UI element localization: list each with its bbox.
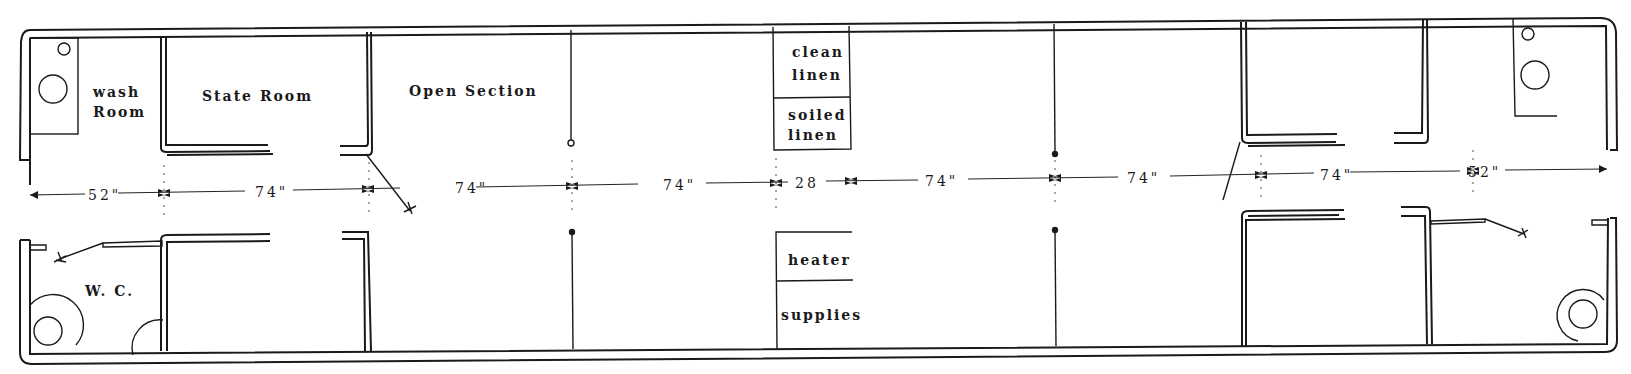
- floor-plan-diagram: 52" 74" 74" 74" 28 74" 74" 74" 52" wash …: [0, 0, 1631, 374]
- room-label-wash-room: Room: [93, 104, 146, 120]
- door-hinge-icon: [404, 202, 416, 214]
- dimension-label: 74": [455, 180, 488, 196]
- dimension-label: 52": [1468, 164, 1501, 180]
- door-hinge-icon: [54, 252, 66, 262]
- wash-room-fixtures: [30, 38, 78, 134]
- room-label-clean-linen: clean: [792, 44, 844, 60]
- dimension-label: 52": [88, 187, 121, 203]
- dimension-label: 28: [795, 175, 819, 191]
- room-label-supplies: supplies: [781, 307, 862, 323]
- room-label-open-section: Open Section: [409, 83, 538, 99]
- dimension-labels: 52" 74" 74" 74" 28 74" 74" 74" 52": [88, 164, 1501, 203]
- toilet-bowl-icon: [34, 317, 62, 345]
- dimension-label: 74": [255, 184, 288, 200]
- right-wash-room-fixtures: [1513, 18, 1557, 116]
- door-swing-line: [1223, 142, 1240, 200]
- sink-icon: [58, 43, 70, 55]
- sink-icon: [1522, 28, 1534, 40]
- room-label-wash-room: wash: [92, 84, 140, 100]
- basin-icon: [39, 75, 67, 103]
- door-swing-line: [366, 154, 410, 211]
- right-wc-fixtures: [1431, 219, 1608, 341]
- basin-icon: [1521, 61, 1549, 89]
- toilet-bowl-icon: [1569, 300, 1597, 328]
- room-label-soiled-linen: soiled: [788, 107, 847, 123]
- room-label-soiled-linen: linen: [788, 127, 838, 143]
- room-label-heater: heater: [788, 252, 851, 268]
- heater-supplies-locker: [776, 232, 853, 349]
- room-label-clean-linen: linen: [792, 67, 842, 83]
- dimension-label: 74": [925, 173, 958, 189]
- room-label-state-room: State Room: [202, 88, 313, 104]
- dimension-label: 74": [663, 177, 696, 193]
- room-label-wc: W. C.: [84, 283, 134, 299]
- dimension-label: 74": [1127, 170, 1160, 186]
- dimension-label: 74": [1320, 167, 1353, 183]
